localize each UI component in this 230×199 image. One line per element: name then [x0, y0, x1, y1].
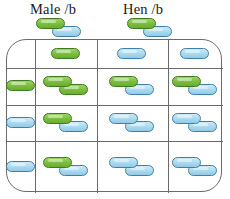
male-gamete-blue-2: [167, 39, 222, 67]
blue-chromosome-pill: [109, 113, 138, 124]
offspring-r4c3: [96, 140, 167, 192]
green-chromosome-pill: [51, 48, 80, 59]
hen-gamete-blue-1: [6, 104, 34, 140]
hen-gamete-blue-2: [6, 140, 34, 192]
blue-chromosome-pill: [172, 113, 201, 124]
green-chromosome-pill: [36, 18, 65, 29]
hen-gamete-green: [6, 67, 34, 104]
offspring-r3c4: [167, 104, 222, 140]
green-chromosome-pill: [6, 80, 35, 91]
offspring-r3c2: [34, 104, 96, 140]
green-chromosome-pill: [43, 76, 72, 87]
blue-chromosome-pill: [6, 161, 35, 172]
genetic-cross-figure: Male /b Hen /b: [0, 0, 230, 199]
green-chromosome-pill: [43, 113, 72, 124]
offspring-r4c2: [34, 140, 96, 192]
offspring-r3c3: [96, 104, 167, 140]
blue-chromosome-pill: [180, 48, 209, 59]
green-chromosome-pill: [127, 18, 156, 29]
hen-gamete-pair: [127, 18, 172, 37]
male-parent-label: Male /b: [30, 1, 76, 18]
blue-chromosome-pill: [172, 157, 201, 168]
offspring-r2c4: [167, 67, 222, 104]
blue-chromosome-pill: [109, 157, 138, 168]
green-chromosome-pill: [172, 76, 201, 87]
green-chromosome-pill: [43, 157, 72, 168]
male-gamete-pair: [36, 18, 81, 37]
blue-chromosome-pill: [6, 117, 35, 128]
green-chromosome-pill: [109, 76, 138, 87]
offspring-r4c4: [167, 140, 222, 192]
blue-chromosome-pill: [117, 48, 146, 59]
male-gamete-blue-1: [96, 39, 167, 67]
offspring-r2c2: [34, 67, 96, 104]
offspring-r2c3: [96, 67, 167, 104]
male-gamete-green: [34, 39, 96, 67]
hen-parent-label: Hen /b: [123, 1, 163, 18]
